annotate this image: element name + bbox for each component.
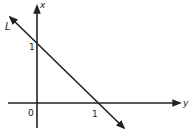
- horizontal-axis-label: y: [182, 98, 189, 108]
- origin-label: 0: [28, 108, 34, 118]
- coordinate-diagram: x y 0 L 1 1: [0, 0, 190, 132]
- line-label: L: [5, 21, 11, 32]
- vertical-intercept-label: 1: [29, 42, 35, 52]
- horizontal-intercept-label: 1: [92, 109, 98, 119]
- vertical-axis-label: x: [39, 0, 46, 10]
